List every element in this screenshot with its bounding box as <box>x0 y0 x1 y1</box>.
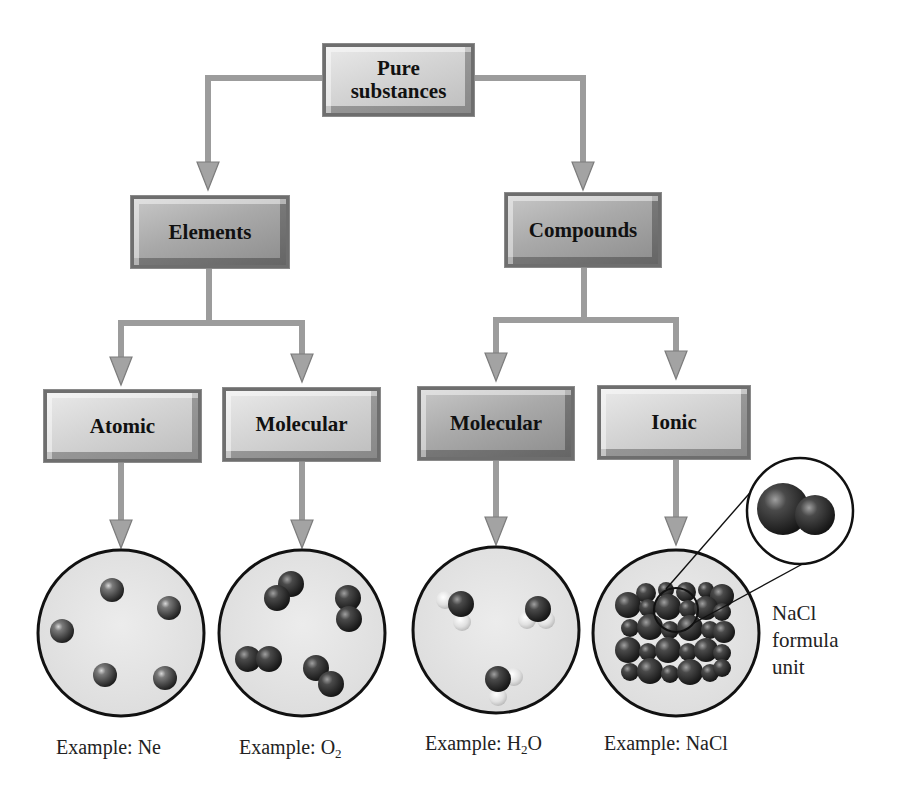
connector-lines <box>121 78 676 520</box>
example-label-neon: Example: Ne <box>56 736 161 759</box>
node-pure-substances-line1: Pure <box>377 57 420 80</box>
arrowhead-icon <box>665 351 687 379</box>
example-circle-water <box>413 547 579 713</box>
nacl-lattice-spheres <box>615 582 735 685</box>
arrowhead-icon <box>291 354 313 382</box>
example-label-water: Example: H2O <box>425 732 542 755</box>
arrowhead-icon <box>485 517 507 545</box>
node-pure-substances: Pure substances <box>323 44 474 116</box>
arrowhead-icon <box>665 517 687 545</box>
arrowhead-icon <box>572 162 594 190</box>
nacl-formula-unit-inset <box>747 458 853 564</box>
pure-substances-classification-diagram: Pure substances Elements Compounds Atomi… <box>0 0 902 798</box>
arrowhead-icon <box>291 520 313 548</box>
node-atomic-label: Atomic <box>90 415 155 438</box>
arrowhead-icon <box>110 520 132 548</box>
example-circle-nacl-lattice <box>593 550 759 716</box>
arrowhead-icon <box>197 162 219 190</box>
node-ionic: Ionic <box>598 386 750 459</box>
node-elements: Elements <box>131 196 289 268</box>
example-circle-oxygen <box>219 550 385 716</box>
node-molecular-elements-label: Molecular <box>255 413 347 436</box>
node-compounds-label: Compounds <box>529 219 638 242</box>
example-label-oxygen: Example: O2 <box>239 736 342 759</box>
node-elements-label: Elements <box>169 221 252 244</box>
node-molecular-elements: Molecular <box>223 388 380 461</box>
node-pure-substances-line2: substances <box>351 80 447 103</box>
node-molecular-compounds: Molecular <box>418 387 574 460</box>
node-compounds: Compounds <box>505 193 661 267</box>
arrowhead-icon <box>110 357 132 385</box>
node-atomic: Atomic <box>44 390 201 462</box>
node-ionic-label: Ionic <box>651 411 697 434</box>
example-circle-neon <box>38 550 204 716</box>
node-molecular-compounds-label: Molecular <box>450 412 542 435</box>
arrowhead-icon <box>485 353 507 381</box>
example-label-nacl: Example: NaCl <box>604 732 728 755</box>
nacl-formula-unit-label: NaCl formula unit <box>772 600 838 681</box>
